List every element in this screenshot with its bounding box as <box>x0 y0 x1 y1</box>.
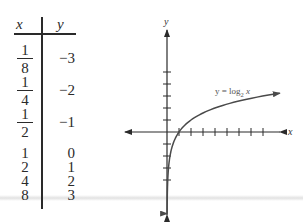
x-axis-label: x <box>287 126 293 137</box>
curve-label: y = log2 x <box>215 86 250 98</box>
log-graph: x y y = log2 x <box>0 0 303 223</box>
log2-curve <box>167 93 280 213</box>
curve-label-prefix: y = log <box>215 86 241 96</box>
curve-label-suffix: x <box>244 86 250 96</box>
y-axis-label: y <box>163 16 169 27</box>
